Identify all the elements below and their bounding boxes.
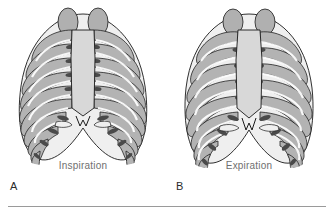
figure-root: Inspiration A <box>0 0 332 215</box>
caption-inspiration: Inspiration <box>0 160 166 172</box>
panel-letter-a: A <box>10 180 17 192</box>
panel-expiration: Expiration B <box>166 0 332 200</box>
sternum <box>236 30 262 118</box>
caption-expiration: Expiration <box>166 160 332 172</box>
bottom-divider-rule <box>8 206 326 207</box>
panel-letter-b: B <box>176 180 183 192</box>
ribcage-inspiration-illustration <box>0 0 166 175</box>
panel-inspiration: Inspiration A <box>0 0 166 200</box>
sternum <box>71 30 95 116</box>
ribcage-expiration-illustration <box>166 0 332 175</box>
